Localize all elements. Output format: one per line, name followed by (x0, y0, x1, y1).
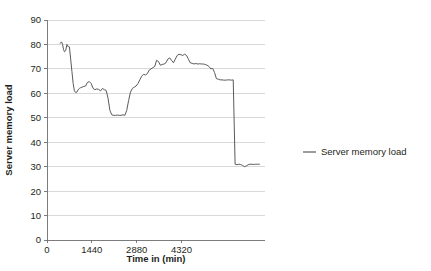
x-axis-title: Time in (min) (127, 253, 186, 264)
chart-background (0, 0, 431, 271)
y-tick-label: 10 (30, 210, 41, 221)
y-tick-label: 80 (30, 39, 41, 50)
y-tick-label: 0 (36, 234, 41, 245)
server-memory-load-chart: 0144028804320 0102030405060708090 Server… (0, 0, 431, 271)
x-tick-label: 0 (44, 244, 49, 255)
y-tick-label: 60 (30, 88, 41, 99)
x-tick-label: 1440 (81, 244, 102, 255)
legend-label: Server memory load (321, 146, 407, 157)
y-tick-label: 70 (30, 63, 41, 74)
y-axis-title: Server memory load (3, 84, 14, 176)
y-tick-label: 90 (30, 14, 41, 25)
y-tick-label: 50 (30, 112, 41, 123)
y-tick-label: 20 (30, 186, 41, 197)
y-tick-label: 40 (30, 137, 41, 148)
y-tick-label: 30 (30, 161, 41, 172)
